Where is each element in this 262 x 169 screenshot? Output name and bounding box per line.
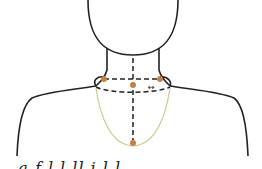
adjust-arrow-icon: ↔ <box>148 83 155 92</box>
neck-measurement-diagram: ↔ <box>0 0 262 169</box>
figure-caption-partial: ...a f l l ll i l l <box>0 159 262 169</box>
landmark-left-neck-base <box>101 76 107 82</box>
shoulder-left <box>17 86 96 156</box>
shoulder-right <box>170 86 248 156</box>
landmark-necklace-lowest-point <box>130 140 136 146</box>
head-outline <box>88 0 178 55</box>
landmark-center-neck-front <box>130 82 136 88</box>
landmark-right-neck-base <box>157 76 163 82</box>
